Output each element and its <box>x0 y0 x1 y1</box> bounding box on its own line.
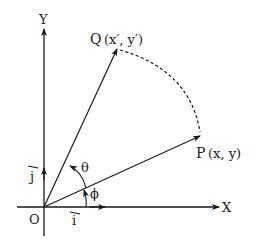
y-axis-label: Y <box>38 12 48 27</box>
point-p-name: P <box>196 145 205 161</box>
i-label: i <box>72 213 76 228</box>
j-hat-bar <box>28 166 38 168</box>
vector-op <box>44 136 200 207</box>
phi-label: ϕ <box>90 186 99 201</box>
point-p-coords: (x, y) <box>208 146 241 161</box>
rotation-arc <box>120 50 200 132</box>
phi-arc <box>84 190 86 207</box>
x-axis-label: X <box>222 200 232 215</box>
rotation-diagram: Y X O i j Q (x′, y′) P (x, y) θ ϕ <box>0 0 255 250</box>
vector-oq <box>44 49 117 207</box>
point-q-name: Q <box>90 31 101 47</box>
origin-label: O <box>29 212 40 227</box>
j-label: j <box>28 169 34 184</box>
theta-label: θ <box>81 160 89 175</box>
point-q-coords: (x′, y′) <box>104 32 143 47</box>
